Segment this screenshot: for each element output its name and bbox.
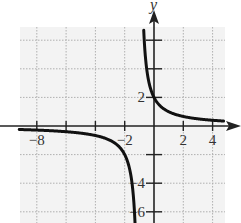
y-axis-label: y xyxy=(148,0,158,14)
x-tick-label: 4 xyxy=(209,132,217,148)
rational-function-graph: y −8−2242−4−6 xyxy=(0,0,241,223)
grid-background xyxy=(20,27,225,223)
y-tick-label: −6 xyxy=(129,204,145,220)
x-tick-label: 2 xyxy=(180,132,188,148)
y-tick-label: 2 xyxy=(138,89,146,105)
x-tick-label: −8 xyxy=(29,132,45,148)
